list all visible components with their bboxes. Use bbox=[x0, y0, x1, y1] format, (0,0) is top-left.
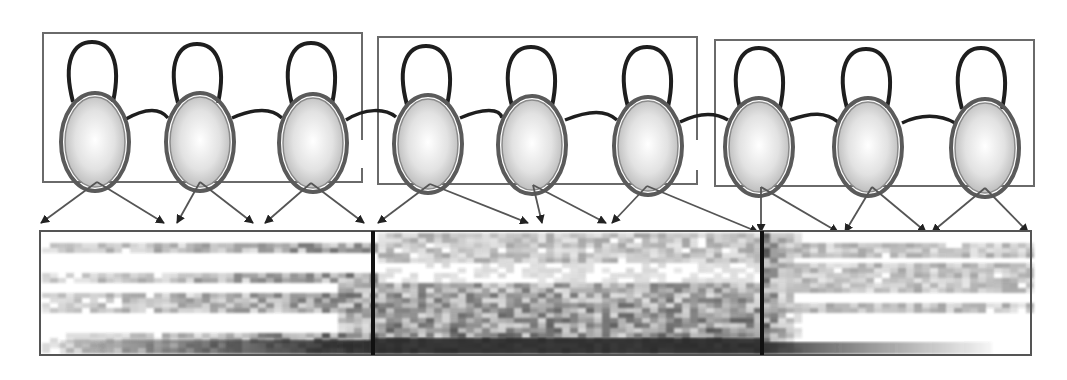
spectrogram bbox=[40, 231, 1034, 355]
spectrogram-segment-2-low-band bbox=[373, 338, 762, 354]
spectrogram-segment-3-low-band bbox=[762, 342, 992, 354]
state-3-3 bbox=[951, 99, 1019, 197]
state-2-2 bbox=[498, 96, 566, 194]
state-2-1 bbox=[394, 95, 462, 193]
state-3-1 bbox=[725, 98, 793, 196]
state-1-1 bbox=[61, 93, 129, 191]
state-2-3 bbox=[614, 97, 682, 195]
hmm-spectrogram-diagram bbox=[0, 0, 1067, 380]
state-3-2 bbox=[834, 98, 902, 196]
state-1-3 bbox=[279, 94, 347, 192]
spectrogram-segment-1-low-band bbox=[60, 340, 373, 354]
state-1-2 bbox=[166, 93, 234, 191]
hmm-states bbox=[61, 93, 1019, 197]
